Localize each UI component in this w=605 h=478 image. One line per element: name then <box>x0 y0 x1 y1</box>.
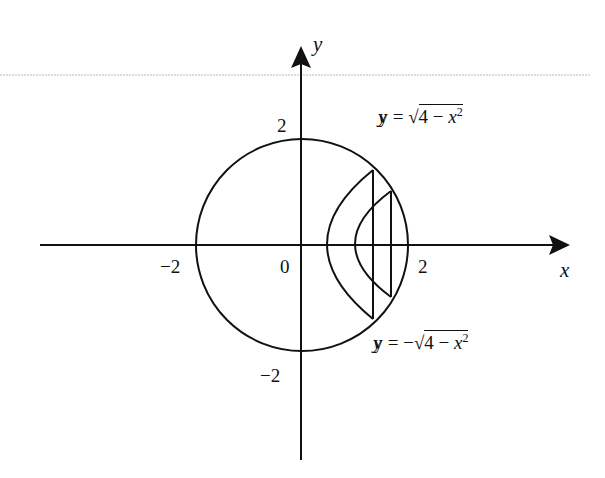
y-tick-2: 2 <box>277 116 287 135</box>
x-axis-label: x <box>560 260 569 281</box>
y-axis-label: y <box>313 34 322 55</box>
x-tick-neg2: −2 <box>160 257 180 276</box>
upper-curve-label: yy = √4 − x2 <box>378 106 463 126</box>
lower-curve-label: yy = −√4 − x2 <box>373 332 468 352</box>
diagram-canvas <box>0 0 605 478</box>
x-tick-2: 2 <box>418 257 428 276</box>
origin-label: 0 <box>280 257 290 276</box>
y-tick-neg2: −2 <box>260 366 280 385</box>
